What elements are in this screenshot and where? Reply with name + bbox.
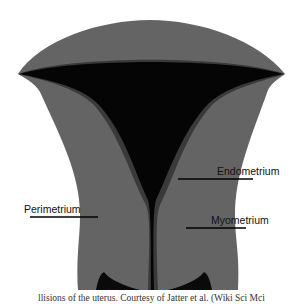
label-perimetrium: Perimetrium	[24, 203, 81, 215]
label-endometrium: Endometrium	[217, 165, 279, 177]
uterus-diagram	[0, 0, 303, 304]
label-myometrium: Myometrium	[211, 214, 269, 226]
figure-caption: llisions of the uterus. Courtesy of Jatt…	[0, 293, 303, 303]
